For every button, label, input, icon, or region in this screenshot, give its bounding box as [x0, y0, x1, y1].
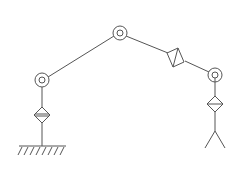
gripper-icon [205, 112, 225, 148]
forearm-prismatic-joint-icon [167, 48, 184, 67]
shoulder-revolute-joint-icon [35, 73, 49, 87]
wrist-revolute-joint-icon [208, 68, 222, 96]
diagram-svg [0, 0, 242, 170]
elbow-revolute-joint-icon [113, 26, 127, 40]
wrist-prismatic-joint-icon [207, 96, 223, 112]
upper-arm-link [48, 36, 114, 77]
ground-icon [18, 146, 66, 155]
kinematic-diagram [0, 0, 242, 170]
base-prismatic-joint-icon [34, 107, 50, 123]
